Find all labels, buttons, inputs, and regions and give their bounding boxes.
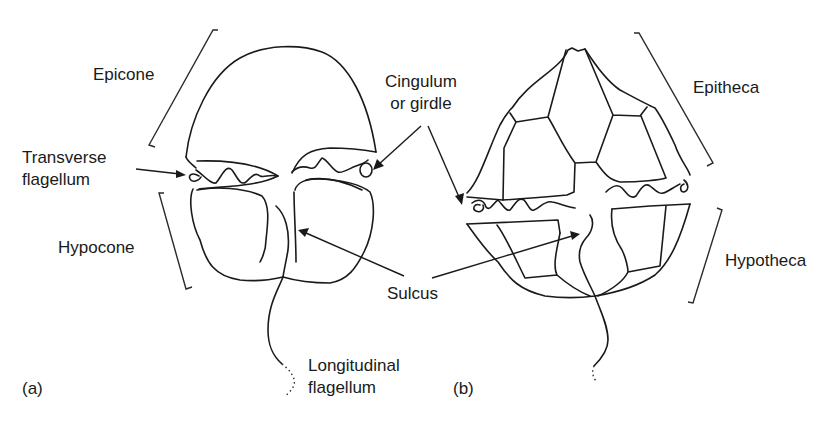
panel-a-cell xyxy=(186,47,376,396)
sulcus-groove-right xyxy=(294,192,296,262)
longitudinal-flagellum xyxy=(268,277,283,364)
longitudinal-flagellum-label: Longitudinal flagellum xyxy=(308,355,400,399)
sulcus-arrow-a xyxy=(298,228,404,276)
transverse-flagellum-label-line2: flagellum xyxy=(22,169,106,191)
cingulum-right-loop xyxy=(360,163,372,177)
longitudinal-flagellum-label-line1: Longitudinal xyxy=(308,355,400,377)
longitudinal-flagellum-b xyxy=(594,296,608,366)
hypocone-left-lobe xyxy=(191,188,283,281)
panel-a-tag: (a) xyxy=(22,378,43,400)
epitheca-bracket xyxy=(634,33,713,166)
hypotheca-label: Hypotheca xyxy=(725,250,806,272)
transverse-flagellum-label: Transverse flagellum xyxy=(22,147,106,191)
longitudinal-flagellum-label-line2: flagellum xyxy=(308,377,400,399)
panel-b-tag: (b) xyxy=(453,378,474,400)
sulcus-label: Sulcus xyxy=(387,283,438,305)
hypotheca-outline xyxy=(467,204,690,298)
epitheca-plate-sutures xyxy=(503,49,666,200)
cingulum-label: Cingulum or girdle xyxy=(385,71,457,115)
hypocone-label: Hypocone xyxy=(58,237,135,259)
hypocone-bracket xyxy=(159,193,192,289)
sulcus-arrow-b xyxy=(432,231,580,278)
transverse-flagellum-label-line1: Transverse xyxy=(22,147,106,169)
epicone-label: Epicone xyxy=(93,64,154,86)
epicone-left-edge xyxy=(186,157,196,168)
cingulum-arrow-b xyxy=(428,126,464,205)
panel-b-cell xyxy=(467,48,690,381)
epitheca-label: Epitheca xyxy=(693,77,759,99)
hypocone-right-lobe xyxy=(283,179,373,283)
longitudinal-flagellum-b-tip xyxy=(593,366,596,381)
cingulum-b-left-loop xyxy=(474,205,484,212)
epicone-outline xyxy=(186,47,376,157)
epitheca-outline xyxy=(467,48,690,193)
cingulum-label-line2: or girdle xyxy=(385,93,457,115)
cingulum-b-right-loop xyxy=(681,180,688,192)
epicone-bracket xyxy=(149,30,218,147)
cingulum-arrow-a xyxy=(373,126,421,170)
sulcus-b-groove xyxy=(579,215,595,296)
cingulum-label-line1: Cingulum xyxy=(385,71,457,93)
transverse-flagellum-loop xyxy=(189,174,201,181)
hypotheca-bracket xyxy=(688,208,722,303)
longitudinal-flagellum-tip xyxy=(282,364,294,396)
transverse-flagellum-arrow xyxy=(136,169,186,178)
sulcus-groove-left xyxy=(276,206,288,277)
